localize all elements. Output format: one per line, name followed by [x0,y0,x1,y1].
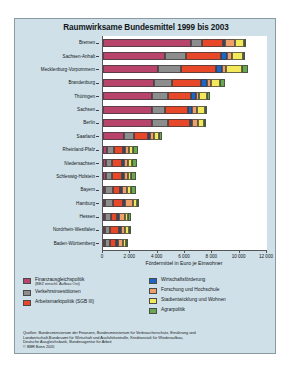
x-axis-tick [266,250,267,253]
bar-segment [211,79,221,87]
legend-sublabel: (BEZ einschl. Aufbau Ost) [35,282,84,287]
bar-segment [226,65,242,73]
legend-item: Verkehrsinvestitionen [23,289,145,297]
bar-segment [112,172,123,180]
legend-item: Forschung und Hochschule [149,287,269,295]
chart-legend: Finanzausgleichspolitik(BEZ einschl. Auf… [23,277,269,329]
legend-item: Finanzausgleichspolitik(BEZ einschl. Auf… [23,277,145,287]
legend-label: Finanzausgleichspolitik(BEZ einschl. Auf… [35,277,84,287]
legend-column-right: WirtschaftsförderungForschung und Hochsc… [149,277,269,317]
bar-segment [242,65,247,73]
y-axis-label: Berlin [21,120,95,125]
y-axis-tick [96,203,99,204]
bar-segment [132,159,137,167]
bar-row [103,119,206,127]
x-axis: 02 0004 0006 0008 00010 00012 000 [102,250,266,251]
y-axis-label: Mecklenburg-Vorpommern [21,67,95,72]
x-axis-tick [184,250,185,253]
bar-segment [181,65,217,73]
bar-segment [131,172,136,180]
y-axis-label: Baden-Württemberg [21,241,95,246]
bar-segment [165,106,188,114]
y-axis-tick [96,56,99,57]
bar-segment [103,79,154,87]
plot-area-wrapper: BremenSachsen-AnhaltMecklenburg-Vorpomme… [23,36,269,264]
bar-segment [172,79,201,87]
y-axis-label: Hamburg [21,201,95,206]
y-axis-label: Thüringen [21,94,95,99]
bar-segment [243,52,245,60]
plot-area [102,36,267,250]
bar-row [103,159,137,167]
bar-segment [103,132,124,140]
bar-segment [204,119,206,127]
legend-label: Wirtschaftsförderung [161,277,205,282]
bar-segment [103,52,165,60]
legend-item: Arbeitsmarktpolitik (SGB III) [23,299,145,307]
x-axis-tick-label: 6 000 [178,254,190,259]
bar-segment [207,92,210,100]
bar-segment [107,146,114,154]
legend-item: Agrarpolitik [149,307,269,315]
x-axis-title: Fördermittel in Euro je Einwohner [102,260,266,266]
bar-segment [232,52,243,60]
bar-segment [152,106,166,114]
y-axis-tick [96,217,99,218]
y-axis-tick [96,69,99,70]
bar-segment [110,226,118,234]
y-axis-tick [96,243,99,244]
bar-segment [105,199,113,207]
page-title: Raumwirksame Bundesmittel 1999 bis 2003 [15,23,277,32]
legend-item: Wirtschaftsförderung [149,277,269,285]
legend-color-swatch-icon [23,290,31,297]
y-axis-label: Nordrhein-Westfalen [21,227,95,232]
x-axis-tick-label: 8 000 [206,254,218,259]
y-axis-tick [96,43,99,44]
legend-color-swatch-icon [149,308,157,315]
bar-segment [154,79,172,87]
y-axis-label: Sachsen [21,107,95,112]
bar-segment [103,92,152,100]
legend-label: Agrarpolitik [161,307,185,312]
x-axis-tick [239,250,240,253]
bar-row [103,226,131,234]
bar-row [103,65,248,73]
bar-segment [137,199,139,207]
bar-row [103,146,138,154]
bar-segment [103,106,152,114]
legend-color-swatch-icon [149,298,157,305]
bar-segment [199,92,207,100]
source-copyright: © BBR Bonn 2005 [23,345,269,350]
bar-segment [125,199,133,207]
bar-segment [225,39,235,47]
x-axis-tick-label: 10 000 [232,254,246,259]
y-axis-tick [96,110,99,111]
legend-color-swatch-icon [23,300,31,307]
x-axis-tick [129,250,130,253]
x-axis-tick-label: 4 000 [151,254,163,259]
y-axis-tick [96,150,99,151]
y-axis-label: Brandenburg [21,80,95,85]
bar-segment [205,106,207,114]
bar-segment [113,186,120,194]
bar-segment [103,65,158,73]
bar-segment [202,39,223,47]
bar-segment [113,199,123,207]
bar-segment [168,92,191,100]
legend-label: Stadtentwicklung und Wohnen [161,297,226,302]
y-axis-tick [96,123,99,124]
bar-segment [114,146,124,154]
x-axis-tick-label: 2 000 [124,254,136,259]
bar-segment [165,52,186,60]
bar-segment [124,132,135,140]
bar-segment [134,132,148,140]
bar-segment [126,239,129,247]
bar-row [103,213,131,221]
x-axis-tick-label: 0 [101,254,104,259]
y-axis-label: Rheinland-Pfalz [21,147,95,152]
bar-segment [235,39,244,47]
x-axis-tick [157,250,158,253]
legend-column-left: Finanzausgleichspolitik(BEZ einschl. Auf… [23,277,145,309]
bar-segment [158,65,181,73]
y-axis-labels: BremenSachsen-AnhaltMecklenburg-Vorpomme… [23,36,99,250]
